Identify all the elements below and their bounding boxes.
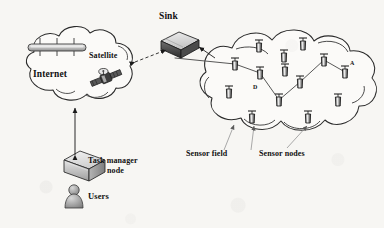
internet-cloud (26, 27, 132, 101)
satellite-label: Satellite (89, 52, 117, 60)
task-manager-label-line2: node (107, 167, 124, 175)
sink-label: Sink (159, 12, 178, 22)
diagram-svg (0, 0, 384, 228)
node-a-label: A (350, 60, 354, 66)
internet-label: Internet (33, 70, 67, 80)
sensor-field-label: Sensor field (186, 150, 227, 158)
node-d-label: D (253, 84, 257, 90)
user-person-icon (65, 185, 83, 208)
sensor-field-cloud (200, 30, 376, 130)
sink-box-icon (161, 32, 199, 58)
users-label: Users (88, 192, 109, 201)
cloud-to-sink-link (135, 50, 166, 62)
sensor-nodes-label: Sensor nodes (259, 150, 305, 158)
figure-canvas: Internet Satellite Sink Task manager nod… (0, 0, 384, 228)
task-manager-label-line1: Task manager (88, 157, 138, 165)
